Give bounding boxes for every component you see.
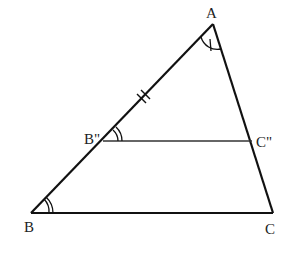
label-b: B (24, 219, 34, 235)
label-b2: B" (84, 131, 100, 147)
triangle-diagram: A B C B" C" (0, 0, 300, 268)
segment-ac (213, 24, 273, 213)
segment-ab (31, 24, 213, 213)
label-c2: C" (256, 134, 272, 150)
angle-a-tick-icon (210, 39, 211, 51)
angle-b-arc-inner-icon (44, 199, 49, 213)
label-a: A (206, 5, 217, 21)
label-c: C (265, 221, 275, 237)
angle-b2-arc-inner-icon (113, 130, 118, 141)
diagram-svg: A B C B" C" (0, 0, 300, 268)
